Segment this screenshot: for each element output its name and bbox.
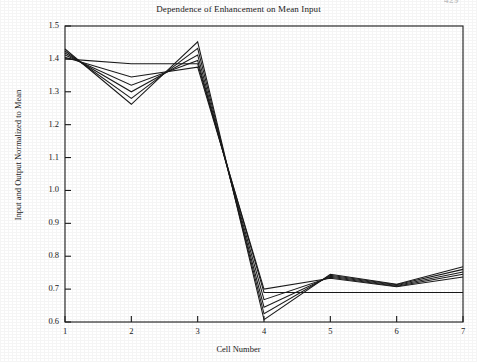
y-tick-label: 1.0 — [29, 184, 59, 194]
x-tick-label: 6 — [387, 326, 407, 336]
y-tick-label: 0.7 — [29, 283, 59, 293]
series-line-output-5 — [65, 42, 463, 320]
y-tick-label: 1.3 — [29, 86, 59, 96]
page-canvas: 429 Dependence of Enhancement on Mean In… — [0, 0, 477, 362]
series-line-output-1 — [65, 57, 463, 289]
y-tick-label: 1.2 — [29, 119, 59, 129]
y-tick-label: 1.4 — [29, 53, 59, 63]
y-tick-label: 0.8 — [29, 250, 59, 260]
x-tick-label: 2 — [121, 326, 141, 336]
y-tick-label: 0.6 — [29, 316, 59, 326]
y-tick-label: 1.5 — [29, 20, 59, 30]
y-tick-label: 1.1 — [29, 152, 59, 162]
y-axis-title: Input and Output Normalized to Mean — [13, 45, 23, 265]
x-tick-label: 5 — [320, 326, 340, 336]
plot-frame — [65, 26, 463, 322]
data-series-lines — [65, 42, 463, 320]
y-axis-ticks — [65, 26, 71, 322]
x-tick-label: 1 — [55, 326, 75, 336]
x-tick-label: 7 — [453, 326, 473, 336]
series-line-output-3 — [65, 53, 463, 307]
x-tick-label: 4 — [254, 326, 274, 336]
y-tick-label: 0.9 — [29, 217, 59, 227]
x-axis-title: Cell Number — [0, 344, 477, 354]
x-tick-label: 3 — [188, 326, 208, 336]
series-line-output-2 — [65, 55, 463, 300]
line-chart-plot — [0, 0, 477, 362]
